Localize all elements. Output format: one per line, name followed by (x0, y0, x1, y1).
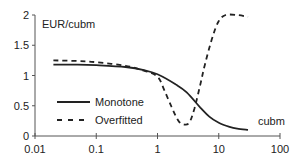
x-tick-label: 1 (154, 143, 160, 155)
x-axis-label: cubm (258, 115, 285, 127)
y-tick-label: 1 (23, 70, 29, 82)
line-chart: 00.511.52 0.010.1110100 EUR/cubm cubm Mo… (0, 0, 295, 165)
y-tick-label: 1.5 (14, 39, 29, 51)
series-overfitted-line (53, 14, 248, 124)
legend-overfitted-label: Overfitted (95, 114, 143, 126)
y-tick-label: 2 (23, 9, 29, 21)
y-tick-label: 0 (23, 130, 29, 142)
x-tick-label: 10 (213, 143, 225, 155)
legend: Monotone Overfitted (57, 96, 144, 126)
legend-monotone-label: Monotone (95, 96, 144, 108)
x-tick-label: 0.01 (24, 143, 45, 155)
x-tick-label: 0.1 (89, 143, 104, 155)
y-axis-ticks: 00.511.52 (14, 9, 35, 142)
y-axis-label: EUR/cubm (42, 18, 95, 30)
y-tick-label: 0.5 (14, 100, 29, 112)
x-tick-label: 100 (271, 143, 289, 155)
